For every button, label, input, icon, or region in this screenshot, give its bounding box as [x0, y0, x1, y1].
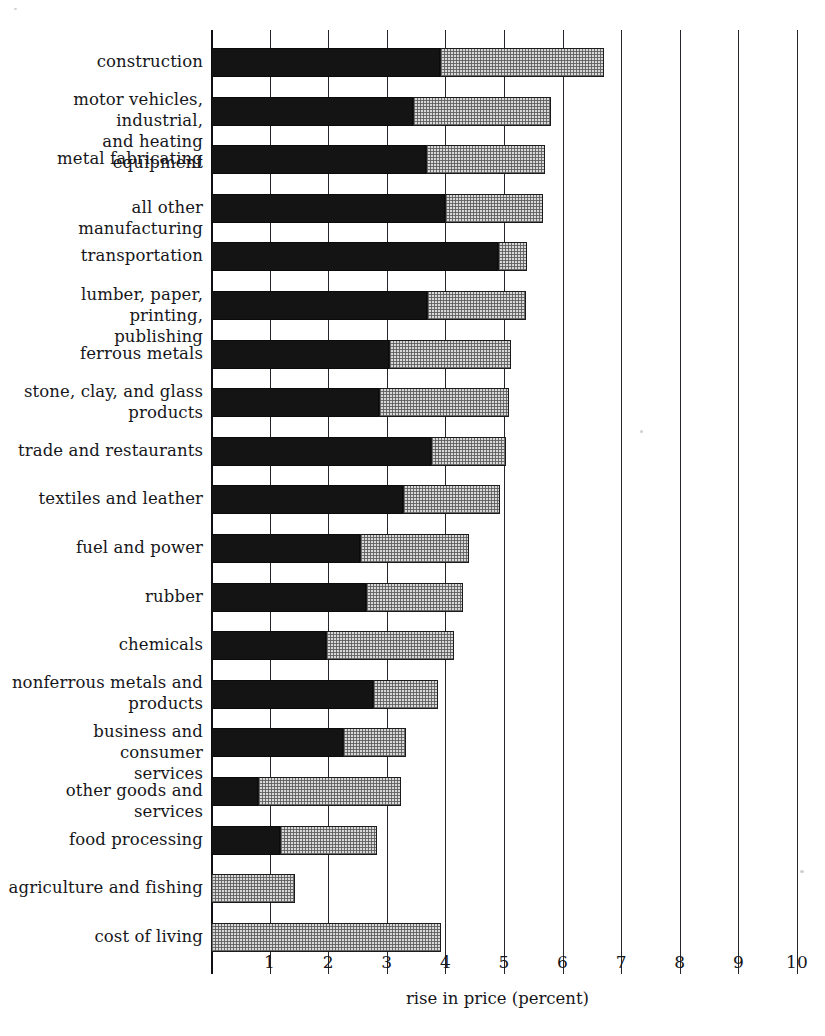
category-label: cost of living — [7, 926, 203, 947]
bar-segment-light — [413, 97, 551, 126]
bar-segment-dark — [211, 826, 280, 855]
bar-segment-dark — [211, 291, 427, 320]
bar-segment-dark — [211, 485, 403, 514]
bar-segment-light — [445, 194, 543, 223]
category-label-line: chemicals — [7, 634, 203, 655]
bar-segment-dark — [211, 145, 426, 174]
x-tick-label-1: 1 — [250, 952, 290, 972]
bar-segment-light — [389, 340, 511, 369]
category-label: business and consumerservices — [7, 721, 203, 784]
bar-segment-light — [373, 680, 439, 709]
x-tick-label-3: 3 — [367, 952, 407, 972]
category-label-line: products — [7, 693, 203, 714]
category-label: agriculture and fishing — [7, 877, 203, 898]
category-label: stone, clay, and glassproducts — [7, 381, 203, 423]
bar-segment-dark — [211, 583, 366, 612]
x-tick-label-6: 6 — [543, 952, 583, 972]
category-label-line: cost of living — [7, 926, 203, 947]
bar-segment-dark — [211, 680, 373, 709]
x-axis-title: rise in price (percent) — [0, 989, 825, 1008]
bar-segment-light — [258, 777, 401, 806]
gridline-6 — [563, 30, 564, 960]
bar-segment-dark — [211, 97, 413, 126]
category-label: transportation — [7, 245, 203, 266]
bar-segment-dark — [211, 437, 431, 466]
x-tick-label-9: 9 — [718, 952, 758, 972]
category-label-column: constructionmotor vehicles, industrial,a… — [0, 0, 203, 1036]
category-label: rubber — [7, 586, 203, 607]
x-tick-label-7: 7 — [601, 952, 641, 972]
category-label-line: ferrous metals — [7, 343, 203, 364]
gridline-9 — [738, 30, 739, 960]
category-label-line: food processing — [7, 829, 203, 850]
x-tick-label-2: 2 — [308, 952, 348, 972]
bar-segment-light — [343, 728, 406, 757]
category-label-line: construction — [7, 51, 203, 72]
category-label-line: textiles and leather — [7, 488, 203, 509]
bar-segment-light — [403, 485, 501, 514]
bar-segment-dark — [211, 534, 360, 563]
bar-segment-light — [211, 923, 441, 952]
category-label-line: trade and restaurants — [7, 440, 203, 461]
x-tick-label-10: 10 — [777, 952, 817, 972]
bar-segment-light — [427, 291, 527, 320]
category-label: metal fabricating — [7, 148, 203, 169]
category-label-line: agriculture and fishing — [7, 877, 203, 898]
bar-segment-light — [440, 48, 604, 77]
bar-segment-dark — [211, 340, 389, 369]
bar-segment-light — [366, 583, 463, 612]
bar-segment-light — [379, 388, 509, 417]
bar-segment-dark — [211, 728, 343, 757]
category-label-line: motor vehicles, industrial, — [7, 89, 203, 131]
bar-segment-dark — [211, 777, 258, 806]
bar-segment-dark — [211, 48, 440, 77]
category-label-line: other goods and services — [7, 780, 203, 822]
x-tick-label-5: 5 — [484, 952, 524, 972]
bar-segment-light — [326, 631, 454, 660]
category-label-line: products — [7, 402, 203, 423]
category-label-line: lumber, paper, printing, — [7, 284, 203, 326]
x-tick-label-4: 4 — [425, 952, 465, 972]
category-label-line: fuel and power — [7, 537, 203, 558]
category-label-line: nonferrous metals and — [7, 672, 203, 693]
bar-segment-light — [426, 145, 545, 174]
x-axis-title-text: rise in price (percent) — [406, 989, 589, 1008]
category-label: food processing — [7, 829, 203, 850]
category-label-line: all other manufacturing — [7, 197, 203, 239]
category-label: other goods and services — [7, 780, 203, 822]
bar-segment-light — [431, 437, 505, 466]
bar-segment-light — [498, 242, 527, 271]
category-label-line: transportation — [7, 245, 203, 266]
category-label: fuel and power — [7, 537, 203, 558]
gridline-10 — [797, 30, 798, 960]
category-label: all other manufacturing — [7, 197, 203, 239]
bar-segment-dark — [211, 388, 379, 417]
x-tick-label-8: 8 — [660, 952, 700, 972]
category-label: nonferrous metals andproducts — [7, 672, 203, 714]
category-label-line: stone, clay, and glass — [7, 381, 203, 402]
bar-segment-dark — [211, 242, 498, 271]
category-label: construction — [7, 51, 203, 72]
bar-chart: constructionmotor vehicles, industrial,a… — [0, 0, 825, 1036]
gridline-8 — [680, 30, 681, 960]
bar-segment-light — [360, 534, 469, 563]
bar-segment-light — [211, 874, 295, 903]
category-label: textiles and leather — [7, 488, 203, 509]
x-tick-0 — [211, 960, 213, 974]
gridline-7 — [621, 30, 622, 960]
plot-area — [211, 30, 797, 960]
category-label-line: business and consumer — [7, 721, 203, 763]
category-label: trade and restaurants — [7, 440, 203, 461]
bar-segment-light — [280, 826, 377, 855]
category-label: chemicals — [7, 634, 203, 655]
bar-segment-dark — [211, 194, 445, 223]
category-label: ferrous metals — [7, 343, 203, 364]
category-label: lumber, paper, printing,publishing — [7, 284, 203, 347]
category-label-line: rubber — [7, 586, 203, 607]
paper-speck — [800, 870, 804, 873]
category-label-line: metal fabricating — [7, 148, 203, 169]
bar-segment-dark — [211, 631, 326, 660]
